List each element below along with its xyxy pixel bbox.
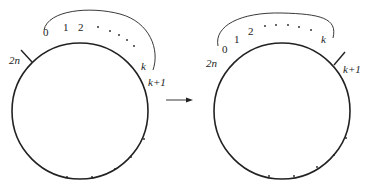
right-label-k: k — [321, 33, 327, 45]
transition-arrow — [166, 98, 193, 103]
right-circle — [214, 43, 350, 179]
arrowhead-icon — [186, 98, 193, 103]
left-label-2: 2 — [78, 21, 84, 33]
right-label-2: 2 — [248, 25, 254, 37]
left-top-ellipsis — [97, 26, 135, 47]
left-figure: 0 1 2 k k+1 2n — [9, 10, 166, 179]
left-label-k-plus-1: k+1 — [148, 76, 166, 88]
left-label-2n: 2n — [9, 54, 21, 66]
left-label-1: 1 — [63, 21, 69, 33]
left-bracket-arc — [44, 10, 155, 70]
right-bottom-ellipsis — [268, 137, 347, 177]
right-label-0: 0 — [222, 43, 228, 55]
right-top-ellipsis — [264, 24, 312, 31]
left-label-k: k — [141, 60, 147, 72]
right-label-2n: 2n — [206, 57, 218, 69]
right-label-k-plus-1: k+1 — [343, 63, 361, 75]
right-figure: 2n 0 1 2 k k+1 — [206, 13, 361, 179]
left-circle — [12, 43, 148, 179]
right-label-1: 1 — [234, 33, 240, 45]
circle-rotation-diagram: 0 1 2 k k+1 2n 2 — [0, 0, 366, 188]
left-label-0: 0 — [43, 26, 49, 38]
left-marker-tick — [21, 50, 32, 62]
left-bottom-ellipsis — [66, 138, 145, 178]
